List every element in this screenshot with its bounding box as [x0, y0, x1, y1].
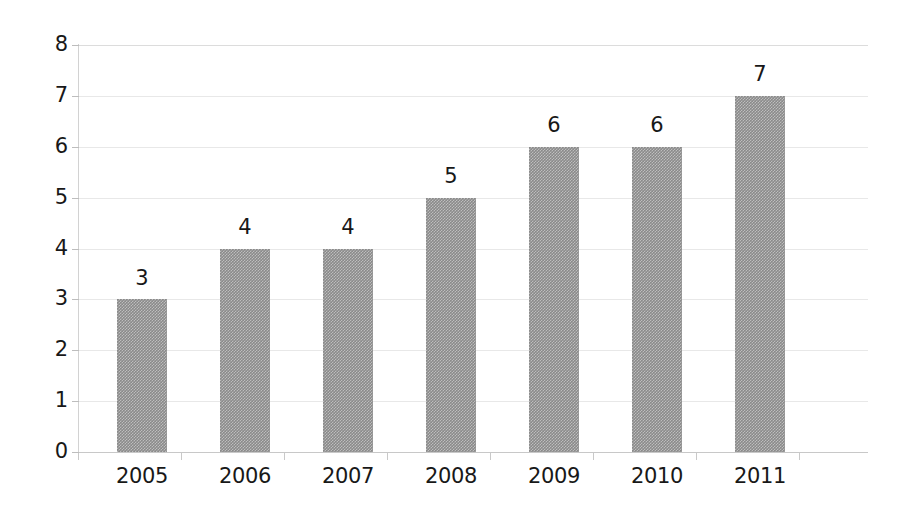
y-axis-label-6: 6: [28, 136, 68, 157]
x-axis-line: [78, 452, 868, 453]
y-axis-label-3: 3: [28, 288, 68, 309]
y-axis-label-8: 8: [28, 34, 68, 55]
data-label-2008: 5: [401, 166, 501, 187]
x-axis-label-2010: 2010: [607, 466, 707, 487]
y-axis-label-0: 0: [28, 441, 68, 462]
x-tick-3: [387, 453, 388, 460]
plot-area: [78, 45, 868, 452]
x-tick-1: [181, 453, 182, 460]
x-tick-7: [799, 453, 800, 460]
bar-chart: 8 7 6 5 4 3 2 1 0 2005 2006 2007 2008 20…: [0, 0, 911, 514]
x-tick-6: [696, 453, 697, 460]
bar-2008: [426, 198, 476, 452]
x-tick-2: [284, 453, 285, 460]
data-label-2005: 3: [92, 268, 192, 289]
x-axis-label-2011: 2011: [710, 466, 810, 487]
data-label-2009: 6: [504, 115, 604, 136]
gridline-8: [78, 45, 868, 46]
y-tick-4: [72, 249, 79, 250]
y-tick-3: [72, 299, 79, 300]
x-tick-4: [490, 453, 491, 460]
data-label-2010: 6: [607, 115, 707, 136]
bar-2007: [323, 249, 373, 453]
y-axis-label-4: 4: [28, 238, 68, 259]
data-label-2007: 4: [298, 217, 398, 238]
y-tick-7: [72, 96, 79, 97]
y-axis-label-7: 7: [28, 85, 68, 106]
y-tick-5: [72, 198, 79, 199]
y-tick-1: [72, 401, 79, 402]
x-axis-label-2006: 2006: [195, 466, 295, 487]
x-tick-5: [593, 453, 594, 460]
bar-2009: [529, 147, 579, 452]
bar-2005: [117, 299, 167, 452]
y-axis-label-5: 5: [28, 187, 68, 208]
x-tick-0: [78, 453, 79, 460]
y-axis-tick-labels: 8 7 6 5 4 3 2 1 0: [20, 0, 68, 514]
y-tick-2: [72, 350, 79, 351]
data-label-2006: 4: [195, 217, 295, 238]
bar-2006: [220, 249, 270, 453]
data-label-2011: 7: [710, 64, 810, 85]
y-axis-label-1: 1: [28, 390, 68, 411]
y-axis-label-2: 2: [28, 339, 68, 360]
y-tick-6: [72, 147, 79, 148]
x-axis-label-2005: 2005: [92, 466, 192, 487]
x-axis-label-2007: 2007: [298, 466, 398, 487]
bar-2010: [632, 147, 682, 452]
bar-2011: [735, 96, 785, 452]
x-axis-label-2009: 2009: [504, 466, 604, 487]
x-axis-label-2008: 2008: [401, 466, 501, 487]
y-tick-8: [72, 45, 79, 46]
